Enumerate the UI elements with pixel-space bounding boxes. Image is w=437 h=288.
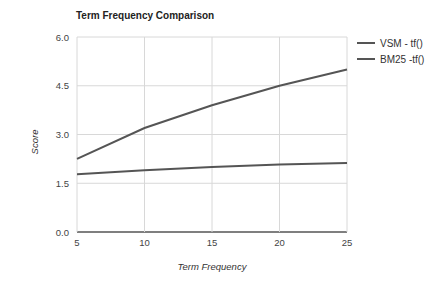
y-axis-ticks: 0.01.53.04.56.0 [56,32,69,238]
svg-text:0.0: 0.0 [56,227,69,238]
legend-line-icon [357,58,375,60]
legend: VSM - tf() BM25 -tf() [357,35,424,67]
svg-text:1.5: 1.5 [56,178,69,189]
legend-item-bm25: BM25 -tf() [357,51,424,67]
svg-text:6.0: 6.0 [56,32,69,43]
y-axis-label: Score [29,130,40,155]
svg-text:10: 10 [139,237,150,248]
grid-lines [77,37,347,232]
svg-text:4.5: 4.5 [56,80,69,91]
legend-item-vsm: VSM - tf() [357,35,424,51]
svg-text:3.0: 3.0 [56,129,69,140]
x-axis-ticks: 510152025 [74,237,352,248]
legend-label: VSM - tf() [380,38,423,49]
svg-text:25: 25 [342,237,353,248]
svg-text:15: 15 [207,237,218,248]
svg-text:20: 20 [274,237,285,248]
legend-label: BM25 -tf() [380,54,424,65]
x-axis-label: Term Frequency [178,261,248,272]
svg-text:5: 5 [74,237,79,248]
legend-line-icon [357,42,375,44]
